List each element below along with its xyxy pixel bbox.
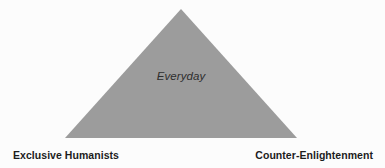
triangle-diagram: Everyday Exclusive Humanists Counter-Enl… — [0, 0, 385, 168]
triangle-center-label-text: Everyday — [157, 69, 206, 83]
triangle-center-label: Everyday — [0, 69, 385, 83]
label-exclusive-humanists: Exclusive Humanists — [13, 149, 119, 162]
triangle-shape — [0, 0, 385, 168]
label-counter-enlightenment: Counter-Enlightenment — [255, 149, 373, 162]
